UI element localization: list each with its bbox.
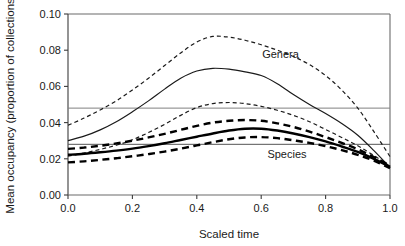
x-tick-label: 0.4	[189, 202, 204, 214]
y-tick-label: 0.10	[40, 8, 61, 20]
y-axis-title: Mean occupancy (proportion of collection…	[4, 0, 16, 214]
x-tick-label: 1.0	[382, 202, 397, 214]
occupancy-line-chart: 0.000.020.040.060.080.10 0.00.20.40.60.8…	[0, 0, 405, 246]
y-tick-label: 0.08	[40, 44, 61, 56]
x-tick-label: 0.8	[318, 202, 333, 214]
y-tick-label: 0.02	[40, 153, 61, 165]
series-annotation-species: Species	[267, 148, 307, 160]
y-tick-label: 0.04	[40, 117, 61, 129]
x-tick-label: 0.2	[125, 202, 140, 214]
x-tick-label: 0.0	[60, 202, 75, 214]
figure-container: 0.000.020.040.060.080.10 0.00.20.40.60.8…	[0, 0, 405, 246]
x-tick-label: 0.6	[254, 202, 269, 214]
series-annotation-genera: Genera	[262, 48, 300, 60]
x-axis-title: Scaled time	[199, 228, 259, 240]
y-tick-label: 0.06	[40, 80, 61, 92]
y-tick-label: 0.00	[40, 189, 61, 201]
